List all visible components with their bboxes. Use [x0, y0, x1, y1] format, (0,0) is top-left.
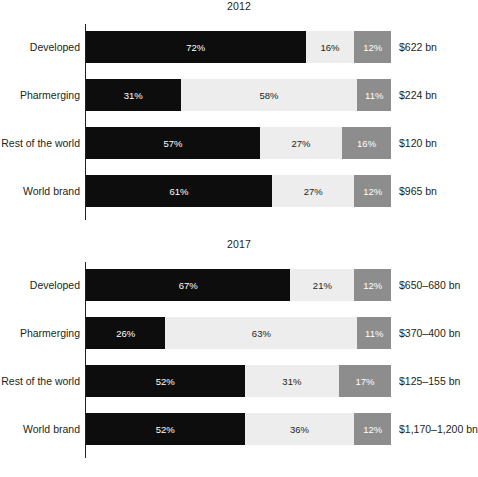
value-label-developed: $622 bn	[399, 31, 437, 63]
bar-segment-1[interactable]: 26%	[86, 317, 165, 349]
bar-segment-1[interactable]: 67%	[86, 269, 290, 301]
value-label-developed: $650–680 bn	[399, 269, 460, 301]
bar-segment-3[interactable]: 16%	[342, 127, 391, 159]
category-label-rest-of-the-world: Rest of the world	[0, 127, 80, 159]
bar-segment-3[interactable]: 12%	[354, 413, 391, 445]
value-label-pharmerging: $370–400 bn	[399, 317, 460, 349]
value-label-rest-of-the-world: $120 bn	[399, 127, 437, 159]
bar-segment-2[interactable]: 63%	[165, 317, 357, 349]
category-label-world-brand: World brand	[0, 175, 80, 207]
bar-segment-1[interactable]: 52%	[86, 413, 245, 445]
category-label-rest-of-the-world: Rest of the world	[0, 365, 80, 397]
bar-row-world-brand: 61% 27% 12%	[86, 175, 391, 207]
plot-area-2017: Developed 67% 21% 12% $650–680 bn Pharme…	[85, 262, 391, 458]
chart-panel-2012: 2012 Developed 72% 16% 12% $622 bn Pharm…	[0, 0, 478, 238]
value-label-rest-of-the-world: $125–155 bn	[399, 365, 460, 397]
bar-segment-1[interactable]: 72%	[86, 31, 306, 63]
bar-segment-3[interactable]: 12%	[354, 269, 391, 301]
bar-row-rest-of-the-world: 57% 27% 16%	[86, 127, 391, 159]
bar-segment-2[interactable]: 58%	[181, 79, 358, 111]
bar-segment-2[interactable]: 16%	[306, 31, 355, 63]
bar-segment-2[interactable]: 36%	[245, 413, 355, 445]
stacked-bar-figure: 2012 Developed 72% 16% 12% $622 bn Pharm…	[0, 0, 478, 477]
bar-segment-2[interactable]: 27%	[260, 127, 342, 159]
chart-title-2017: 2017	[0, 238, 478, 250]
bar-row-pharmerging: 26% 63% 11%	[86, 317, 391, 349]
bar-segment-3[interactable]: 11%	[357, 317, 391, 349]
category-label-developed: Developed	[0, 269, 80, 301]
chart-title-2012: 2012	[0, 0, 478, 12]
bar-row-rest-of-the-world: 52% 31% 17%	[86, 365, 391, 397]
bar-segment-1[interactable]: 57%	[86, 127, 260, 159]
plot-area-2012: Developed 72% 16% 12% $622 bn Pharmergin…	[85, 24, 391, 220]
bar-segment-3[interactable]: 11%	[357, 79, 391, 111]
bar-segment-2[interactable]: 31%	[245, 365, 340, 397]
category-label-pharmerging: Pharmerging	[0, 79, 80, 111]
category-label-pharmerging: Pharmerging	[0, 317, 80, 349]
value-label-world-brand: $965 bn	[399, 175, 437, 207]
value-label-pharmerging: $224 bn	[399, 79, 437, 111]
category-label-world-brand: World brand	[0, 413, 80, 445]
bar-row-pharmerging: 31% 58% 11%	[86, 79, 391, 111]
bar-segment-3[interactable]: 12%	[354, 175, 391, 207]
bar-segment-2[interactable]: 21%	[290, 269, 354, 301]
bar-segment-3[interactable]: 12%	[354, 31, 391, 63]
bar-segment-1[interactable]: 52%	[86, 365, 245, 397]
bar-segment-3[interactable]: 17%	[339, 365, 391, 397]
chart-panel-2017: 2017 Developed 67% 21% 12% $650–680 bn P…	[0, 238, 478, 477]
category-label-developed: Developed	[0, 31, 80, 63]
bar-segment-1[interactable]: 61%	[86, 175, 272, 207]
bar-row-developed: 72% 16% 12%	[86, 31, 391, 63]
bar-row-world-brand: 52% 36% 12%	[86, 413, 391, 445]
value-label-world-brand: $1,170–1,200 bn	[399, 413, 478, 445]
bar-segment-1[interactable]: 31%	[86, 79, 181, 111]
bar-segment-2[interactable]: 27%	[272, 175, 354, 207]
bar-row-developed: 67% 21% 12%	[86, 269, 391, 301]
